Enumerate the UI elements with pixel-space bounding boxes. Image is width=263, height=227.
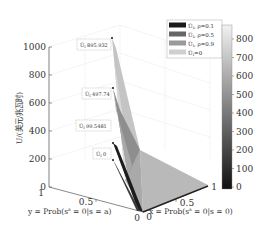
legend-label-rho-0.5: ÛI, ρ=0.5 (188, 31, 215, 39)
annotation-497: ÛI497.74 (82, 88, 111, 99)
cb-tick-0: 0 (236, 182, 242, 192)
annotation-0: ÛI0 (93, 148, 111, 159)
cb-tick-100: 100 (236, 164, 253, 174)
z-tick-1000: 1000 (23, 42, 46, 52)
z-axis: 0 200 400 600 800 1000 U/(美元/兆瓦时) (14, 42, 52, 192)
x-tick-1: 1 (211, 182, 217, 192)
cb-tick-200: 200 (236, 145, 253, 155)
peak-marker-99 (112, 142, 114, 144)
y-tick-0.5: 0.5 (79, 197, 94, 207)
svg-text:ÛI99.5481: ÛI99.5481 (79, 123, 107, 130)
peak-marker-497 (112, 87, 114, 89)
z-tick-400: 400 (29, 126, 46, 136)
cb-tick-700: 700 (236, 53, 253, 63)
cb-tick-500: 500 (236, 90, 253, 100)
legend-swatch-rho-0.9 (169, 41, 186, 46)
y-tick-0: 0 (134, 213, 140, 223)
z-tick-800: 800 (29, 70, 46, 80)
svg-text:ÛI497.74: ÛI497.74 (85, 91, 110, 98)
y-axis-label: y = Prob(sa = 0|s = a) (27, 207, 111, 216)
cb-tick-400: 400 (236, 108, 253, 118)
legend-label-rho-0.1: ÛI, ρ=0.1 (188, 22, 214, 30)
legend-label-rho-0.9: ÛI, ρ=0.9 (188, 40, 215, 48)
z-tick-200: 200 (29, 154, 46, 164)
legend: ÛI, ρ=0.1 ÛI, ρ=0.5 ÛI, ρ=0.9 ÛI=0 (167, 20, 222, 58)
peak-marker-895 (111, 37, 113, 39)
cb-tick-600: 600 (236, 71, 253, 81)
z-axis-label: U/(美元/兆瓦时) (14, 92, 24, 144)
annotation-99: ÛI99.5481 (76, 120, 111, 131)
cb-tick-800: 800 (236, 34, 253, 44)
surface-flat-zero (140, 150, 208, 212)
colorbar: 0 100 200 300 400 500 600 700 800 (222, 25, 253, 192)
y-tick-1: 1 (38, 188, 44, 198)
legend-swatch-rho-0.1 (169, 23, 186, 28)
cb-tick-300: 300 (236, 127, 253, 137)
annotation-895: ÛI895.932 (77, 39, 111, 50)
z-tick-600: 600 (29, 98, 46, 108)
legend-swatch-rho-0.5 (169, 32, 186, 37)
svg-text:ÛI895.932: ÛI895.932 (80, 42, 108, 49)
x-axis-label: x = Prob(sa = 0|s = 0) (149, 207, 233, 216)
surface-chart: 0 200 400 600 800 1000 U/(美元/兆瓦时) 1 0.5 … (0, 0, 263, 227)
legend-swatch-zero (169, 50, 186, 55)
surfaces (111, 37, 208, 212)
legend-label-zero: ÛI=0 (188, 49, 203, 57)
peak-marker-0 (112, 159, 114, 161)
